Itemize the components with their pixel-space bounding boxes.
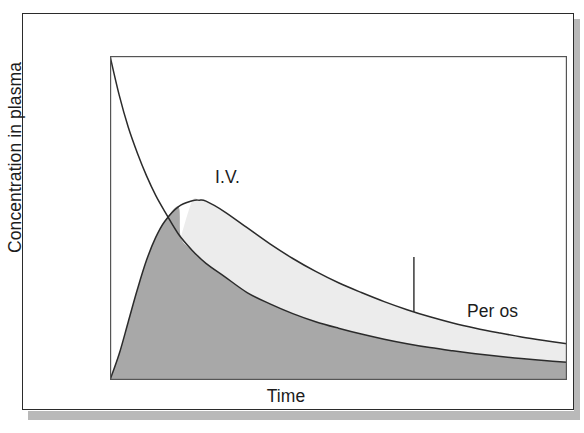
figure-shadow-right: [574, 19, 580, 411]
y-axis-title: Concentration in plasma: [5, 0, 26, 388]
pharmacokinetics-figure: Concentration in plasma Time I.V. Per os: [0, 0, 584, 433]
x-axis-title: Time: [196, 386, 376, 407]
peros-label: Per os: [467, 301, 518, 322]
plot-area: I.V. Per os: [110, 56, 567, 380]
iv-label: I.V.: [215, 167, 240, 188]
figure-outer-border: Concentration in plasma Time I.V. Per os: [22, 13, 574, 410]
concentration-time-plot: [110, 56, 567, 380]
figure-shadow-bottom: [28, 411, 580, 420]
